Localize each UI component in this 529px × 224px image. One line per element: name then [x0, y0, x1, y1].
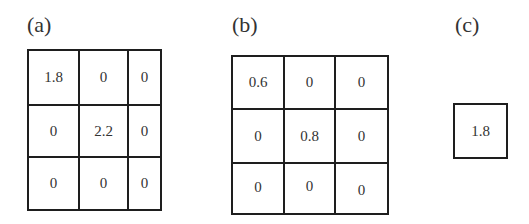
- matrix-b-cell-1-1: 0.8: [285, 110, 334, 162]
- matrix-b-cell-1-0: 0: [233, 110, 283, 162]
- panel-label-b: (b): [232, 14, 258, 36]
- matrix-c-cell-0-0: 1.8: [455, 105, 506, 157]
- matrix-b-cell-2-2: 0: [336, 168, 387, 213]
- matrix-b-cell-0-1: 0: [285, 57, 334, 108]
- matrix-a-cell-1-2: 0: [129, 106, 160, 156]
- matrix-a-cell-1-0: 0: [29, 106, 78, 156]
- matrix-a-cell-1-1: 2.2: [80, 106, 127, 156]
- matrix-b-cell-1-2: 0: [336, 110, 387, 162]
- matrix-a-cell-0-1: 0: [80, 51, 127, 104]
- matrix-a-cell-2-2: 0: [129, 158, 160, 209]
- matrix-a: 1.8 0 0 0 2.2 0 0 0 0: [27, 49, 162, 211]
- matrix-b-cell-0-2: 0: [336, 57, 387, 108]
- matrix-a-cell-0-0: 1.8: [29, 51, 78, 104]
- panel-label-a: (a): [27, 14, 51, 36]
- panel-label-c: (c): [455, 14, 479, 36]
- matrix-a-cell-2-1: 0: [80, 158, 127, 209]
- matrix-a-cell-0-2: 0: [129, 51, 160, 104]
- matrix-b: 0.6 0 0 0 0.8 0 0 0 0: [231, 55, 389, 215]
- matrix-b-cell-2-0: 0: [233, 164, 283, 210]
- matrix-b-cell-0-0: 0.6: [233, 57, 283, 108]
- matrix-b-cell-2-1: 0: [285, 164, 334, 208]
- matrix-c: 1.8: [453, 103, 508, 159]
- matrix-a-cell-2-0: 0: [29, 158, 78, 209]
